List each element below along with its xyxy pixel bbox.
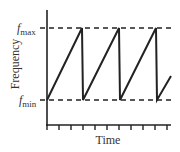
fmin-label: fmin (19, 93, 37, 109)
fmax-label: fmax (17, 21, 36, 37)
x-axis-label: Time (96, 133, 121, 147)
sawtooth-waveform (47, 28, 171, 100)
y-axis-label: Frequency (8, 39, 22, 90)
sawtooth-frequency-diagram: fmax fmin Frequency Time (0, 0, 180, 152)
